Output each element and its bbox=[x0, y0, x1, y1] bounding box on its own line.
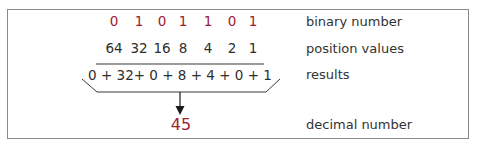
label-binary-number: binary number bbox=[306, 14, 402, 29]
decimal-result: 45 bbox=[171, 115, 191, 134]
arrow-head-icon bbox=[176, 106, 185, 115]
position-value: 64 bbox=[100, 40, 128, 56]
position-value: 8 bbox=[169, 40, 197, 56]
label-position-values: position values bbox=[306, 41, 404, 56]
binary-digit: 1 bbox=[169, 13, 197, 29]
binary-digit: 1 bbox=[239, 13, 267, 29]
label-decimal-number: decimal number bbox=[306, 117, 412, 132]
position-value: 1 bbox=[239, 40, 267, 56]
label-results: results bbox=[306, 67, 350, 82]
binary-digit: 0 bbox=[100, 13, 128, 29]
